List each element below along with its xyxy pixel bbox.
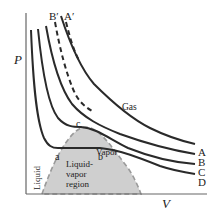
x-axis-label: V [162,196,172,211]
dashed-isotherm-a-prime [66,22,80,62]
label-liquid-vapor-2: vapor [66,169,87,179]
label-b-prime: B′ [49,10,59,22]
label-a-prime: A′ [64,10,74,22]
isotherm-a [61,16,195,144]
label-point-b: b [98,151,103,162]
label-gas-region: Gas [122,102,137,112]
y-axis-label: P [13,52,22,67]
isotherm-b [46,26,195,154]
label-point-a: a [55,151,60,162]
dashed-isotherm-b-prime [55,22,92,111]
pv-diagram: P V B′ A′ A B C D Gas Vapor c a b Liquid… [0,0,216,216]
label-point-c: c [76,118,81,129]
label-liquid-region: Liquid [32,166,42,190]
label-liquid-vapor-3: region [66,179,89,189]
label-isotherm-d: D [198,176,206,188]
label-liquid-vapor-1: Liquid- [66,159,93,169]
